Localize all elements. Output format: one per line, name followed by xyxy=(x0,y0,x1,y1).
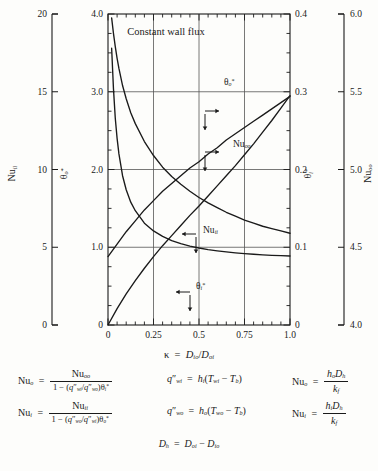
plot-title: Constant wall flux xyxy=(127,26,205,37)
tick-label-theta-i-2: 0.2 xyxy=(295,165,307,175)
tick-label-x-0: 0 xyxy=(106,330,111,340)
arrow-theta-i-left xyxy=(176,290,190,295)
curve-theta_i_star xyxy=(112,18,290,233)
tick-label-nu-ii-2: 10 xyxy=(38,165,48,175)
arrow-theta-o-down xyxy=(203,114,208,130)
tick-label-x-3: 0.75 xyxy=(236,330,253,340)
tick-label-theta-o-1: 1.0 xyxy=(91,242,103,252)
equation-d-h: Dh = Doi − Dio xyxy=(159,438,220,449)
equation-nu-o-def: Nuo = hoDh kf xyxy=(292,368,348,395)
tick-label-theta-o-0: 0 xyxy=(98,320,103,330)
tick-label-nu-oo-2: 5.0 xyxy=(350,165,362,175)
equation-nu-o: Nuo = Nuoo 1 − (q″wi/q″wo)θi* xyxy=(18,368,112,393)
tick-label-theta-i-1: 0.1 xyxy=(295,242,307,252)
figure-root: Constant wall flux Nuii θo* θi* Nuoo θo*… xyxy=(0,0,378,471)
curve-label-nu-oo: Nuoo xyxy=(233,139,251,149)
tick-label-nu-oo-3: 5.5 xyxy=(350,87,362,97)
tick-label-x-2: 0.5 xyxy=(193,330,205,340)
arrow-theta-i-down xyxy=(188,295,193,311)
arrow-theta-o-right xyxy=(205,109,219,114)
equation-q-wi: q″wi = hi(Twi − Tb) xyxy=(167,373,242,384)
tick-label-theta-i-3: 0.3 xyxy=(295,87,307,97)
tick-label-nu-oo-4: 6.0 xyxy=(350,9,362,19)
tick-label-x-1: 0.25 xyxy=(145,330,162,340)
arrow-nu-oo-right xyxy=(205,150,219,155)
axis-label-theta-o-star: θo* xyxy=(58,168,69,179)
tick-label-theta-o-2: 2.0 xyxy=(91,165,103,175)
curve-label-nu-ii: Nuii xyxy=(203,225,218,235)
curve-Nu_ii xyxy=(112,48,290,256)
tick-label-nu-ii-4: 20 xyxy=(38,9,48,19)
arrow-nu-ii-down xyxy=(194,237,199,253)
tick-label-x-4: 1.0 xyxy=(284,330,296,340)
equation-q-wo: q″wo = ho(Two − Tb) xyxy=(167,405,246,416)
tick-label-theta-o-4: 4.0 xyxy=(91,9,103,19)
tick-label-theta-o-3: 3.0 xyxy=(91,87,103,97)
curve-label-theta-o-star: θo* xyxy=(224,77,235,87)
equations-block: Nuo = Nuoo 1 − (q″wi/q″wo)θi* Nui = Nuii… xyxy=(0,362,378,471)
x-axis-caption: κ = Dio/Doi xyxy=(164,349,214,360)
tick-label-nu-ii-1: 5 xyxy=(42,242,47,252)
tick-label-nu-oo-0: 4.0 xyxy=(350,320,362,330)
tick-label-theta-i-4: 0.4 xyxy=(295,9,307,19)
tick-label-nu-ii-0: 0 xyxy=(42,320,47,330)
axis-label-nu-oo: Nuoo xyxy=(362,164,373,182)
equation-nu-i-def: Nui = hiDh kf xyxy=(292,400,346,427)
arrow-nu-ii-left xyxy=(182,232,196,237)
tick-label-theta-i-0: 0 xyxy=(295,320,300,330)
axis-label-nu-ii: Nuii xyxy=(6,166,17,182)
axis-spine-nu-oo xyxy=(338,14,344,325)
tick-label-nu-ii-3: 15 xyxy=(38,87,48,97)
equation-nu-i: Nui = Nuii 1 − (q″wo/q″wi)θo* xyxy=(18,400,112,425)
curve-label-theta-i-star: θi* xyxy=(196,281,205,291)
tick-label-nu-oo-1: 4.5 xyxy=(350,242,362,252)
